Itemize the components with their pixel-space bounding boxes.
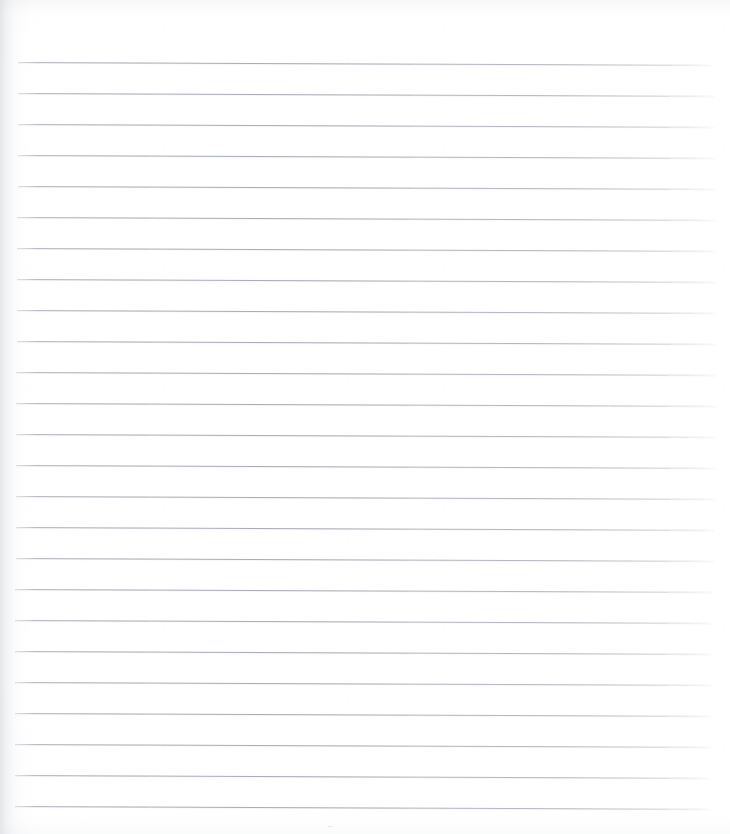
rule-line: [15, 775, 710, 779]
rule-line: [15, 744, 711, 748]
rule-line: [16, 558, 714, 562]
rule-line: [15, 589, 713, 593]
rule-line: [15, 620, 713, 624]
rule-line: [18, 62, 713, 66]
ruled-lines-group: [0, 0, 730, 834]
rule-line: [18, 93, 714, 97]
rule-line: [15, 713, 711, 717]
rule-line: [16, 434, 715, 438]
page-number-smudge: ..: [328, 821, 333, 828]
scanned-page: ..: [0, 0, 730, 834]
rule-line: [17, 310, 716, 314]
rule-line: [15, 651, 712, 655]
rule-line: [15, 806, 710, 810]
rule-line: [17, 341, 716, 345]
rule-line: [16, 372, 716, 376]
rule-line: [17, 279, 716, 283]
rule-line: [16, 465, 715, 469]
rule-line: [16, 496, 715, 500]
rule-line: [16, 527, 714, 531]
rule-line: [18, 124, 714, 128]
rule-line: [18, 186, 715, 190]
rule-line: [17, 248, 716, 252]
rule-line: [17, 217, 715, 221]
rule-line: [18, 155, 715, 159]
rule-line: [16, 403, 716, 407]
rule-line: [15, 682, 712, 686]
